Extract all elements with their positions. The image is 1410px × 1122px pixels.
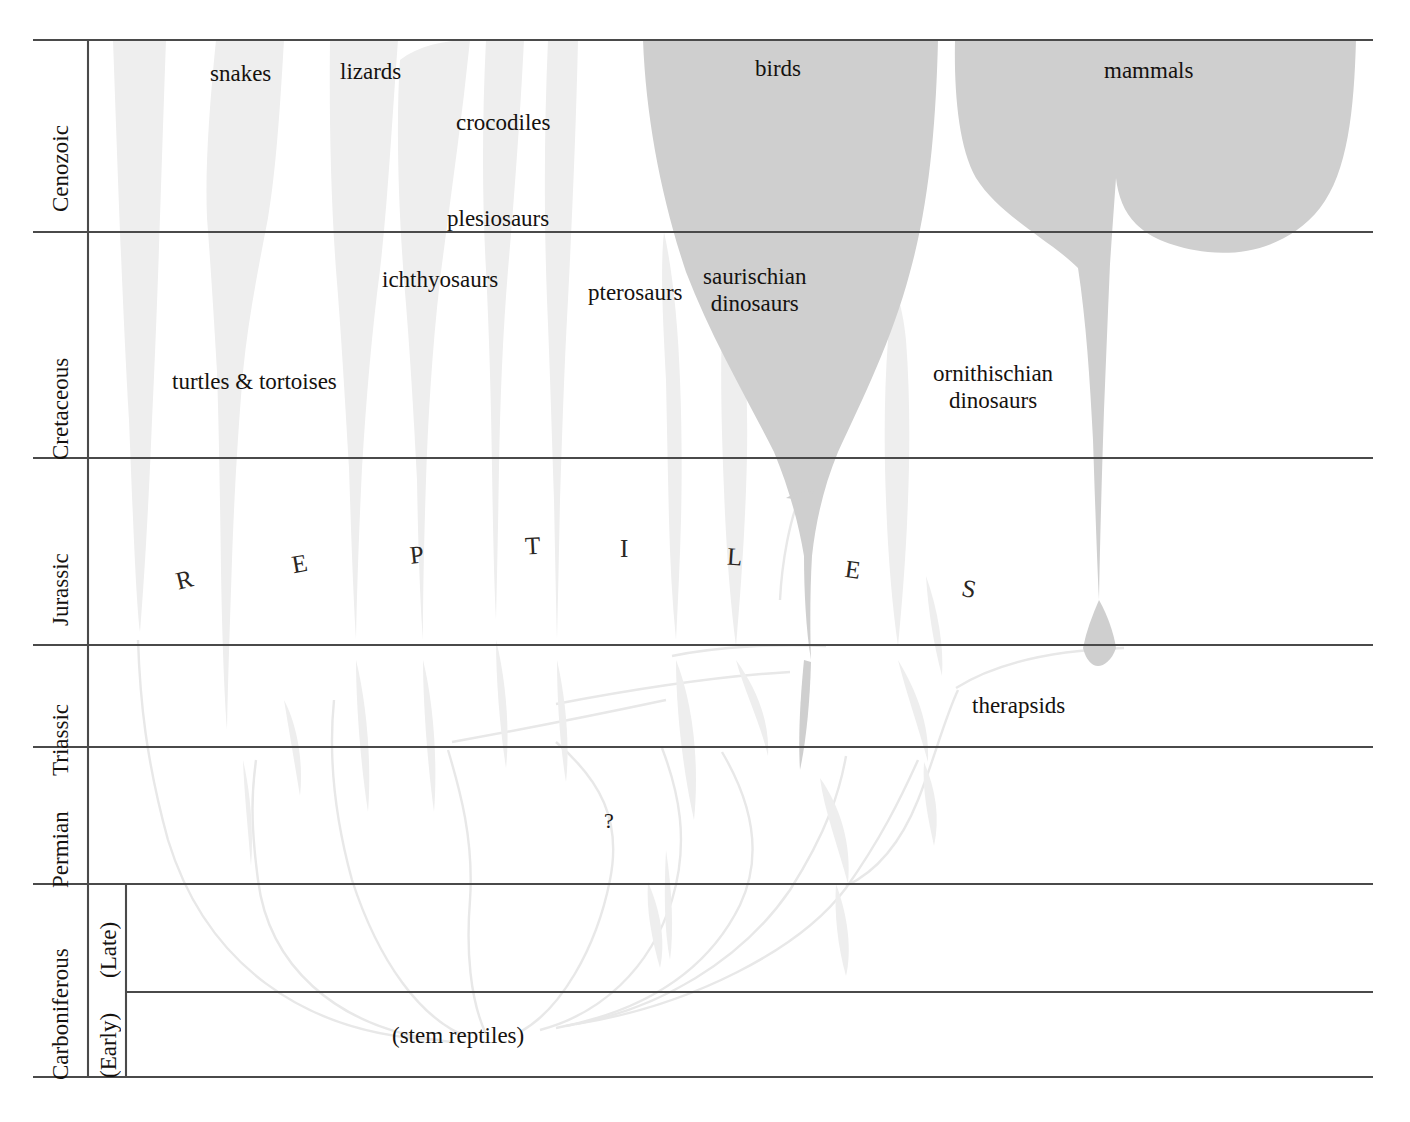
era-label-permian: Permian — [48, 778, 74, 888]
group-label-plesiosaurs: plesiosaurs — [447, 205, 549, 232]
group-label-ornithischian-dinosaurs: ornithischian dinosaurs — [933, 360, 1053, 414]
era-label-carboniferous: Carboniferous — [48, 890, 74, 1080]
spindle-crocodiles — [398, 40, 470, 812]
group-label-saurischian-dinosaurs: saurischian dinosaurs — [703, 263, 806, 317]
spindle-plesiosaurs — [483, 40, 524, 768]
annotation-question-mark: ? — [604, 808, 614, 834]
group-label-crocodiles: crocodiles — [456, 109, 551, 136]
watermark-letter-i: I — [620, 535, 628, 563]
phylogeny-diagram: .pale { fill:#eeeeee; } .dark { fill:#cf… — [0, 0, 1410, 1122]
group-label-mammals: mammals — [1104, 57, 1193, 84]
spindle-ichthyosaurs — [545, 40, 578, 782]
spindle-pterosaurs — [662, 232, 696, 960]
spindle-snakes — [206, 40, 301, 866]
group-label-ichthyosaurs: ichthyosaurs — [382, 266, 498, 293]
annotation-stem-reptiles: (stem reptiles) — [392, 1022, 524, 1049]
watermark-letter-p: P — [409, 540, 426, 569]
era-label-cretaceous: Cretaceous — [48, 300, 74, 460]
group-label-turtles-tortoises: turtles & tortoises — [172, 368, 337, 395]
watermark-letter-l: L — [726, 543, 743, 572]
spindle-turtles — [113, 40, 166, 632]
era-label-jurassic: Jurassic — [48, 506, 74, 626]
spindle-mammals — [955, 40, 1356, 666]
era-label-carb-early: (Early) — [96, 1000, 122, 1078]
era-label-carb-late: (Late) — [96, 892, 122, 978]
era-label-triassic: Triassic — [48, 666, 74, 776]
group-label-lizards: lizards — [340, 58, 401, 85]
group-label-pterosaurs: pterosaurs — [588, 279, 683, 306]
group-label-birds: birds — [755, 55, 801, 82]
figure-canvas: .pale { fill:#eeeeee; } .dark { fill:#cf… — [0, 0, 1410, 1122]
era-label-cenozoic: Cenozoic — [48, 72, 74, 212]
watermark-letter-t: T — [524, 532, 541, 561]
group-label-snakes: snakes — [210, 60, 271, 87]
group-label-therapsids: therapsids — [972, 692, 1065, 719]
spindle-lizards — [330, 40, 398, 812]
